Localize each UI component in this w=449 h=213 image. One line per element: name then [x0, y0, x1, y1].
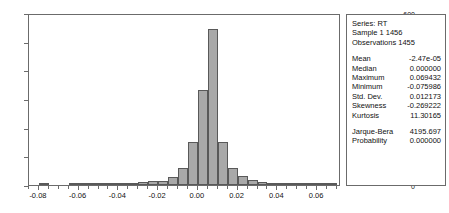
- x-tick-mark: [237, 186, 238, 190]
- x-tick-minor-mark: [48, 186, 49, 189]
- histogram-bar: [118, 183, 128, 185]
- x-tick-label: -0.08: [18, 192, 58, 200]
- statistic-row: Kurtosis11.30165: [352, 111, 441, 120]
- histogram-bar: [277, 183, 287, 185]
- statistics-rows: Mean-2.47e-05Median0.000000Maximum0.0694…: [352, 54, 441, 120]
- statistic-value: -0.269222: [407, 101, 441, 110]
- histogram-bar: [258, 182, 268, 185]
- statistic-row: Minimum-0.075986: [352, 82, 441, 91]
- histogram-bar: [238, 176, 248, 185]
- x-tick-mark: [157, 186, 158, 190]
- x-tick-minor-mark: [88, 186, 89, 189]
- x-tick-minor-mark: [306, 186, 307, 189]
- statistics-header-line: Sample 1 1456: [352, 28, 441, 37]
- histogram-bar: [79, 183, 89, 185]
- test-value: 4195.697: [410, 127, 441, 136]
- x-tick-mark: [197, 186, 198, 190]
- x-tick-minor-mark: [207, 186, 208, 189]
- statistic-label: Maximum: [352, 73, 388, 82]
- x-tick-minor-mark: [98, 186, 99, 189]
- spacer: [352, 47, 441, 54]
- x-tick-minor-mark: [167, 186, 168, 189]
- histogram-bar: [248, 180, 258, 185]
- statistic-row: Probability0.000000: [352, 136, 441, 145]
- x-tick-label: 0.04: [256, 192, 296, 200]
- histogram-bar: [327, 183, 337, 185]
- statistic-row: Maximum0.069432: [352, 73, 441, 82]
- statistic-label: Median: [352, 64, 380, 73]
- histogram-bar: [307, 183, 317, 185]
- histogram-bar: [89, 183, 99, 185]
- x-tick-minor-mark: [187, 186, 188, 189]
- statistics-header: Series: RTSample 1 1456Observations 1455: [352, 19, 441, 47]
- x-tick-mark: [117, 186, 118, 190]
- x-tick-minor-mark: [107, 186, 108, 189]
- statistic-row: Jarque-Bera4195.697: [352, 127, 441, 136]
- histogram-bar: [148, 181, 158, 185]
- x-tick-label: -0.06: [58, 192, 98, 200]
- x-tick-minor-mark: [286, 186, 287, 189]
- statistics-header-line: Observations 1455: [352, 38, 441, 47]
- histogram-bar: [287, 183, 297, 185]
- test-value: 0.000000: [410, 136, 441, 145]
- x-tick-minor-mark: [247, 186, 248, 189]
- histogram-bar: [218, 142, 228, 185]
- x-tick-minor-mark: [127, 186, 128, 189]
- x-tick-minor-mark: [217, 186, 218, 189]
- spacer: [352, 120, 441, 127]
- x-tick-minor-mark: [266, 186, 267, 189]
- statistic-row: Median0.000000: [352, 64, 441, 73]
- histogram-bar: [228, 168, 238, 185]
- histogram-bar: [138, 182, 148, 185]
- x-tick-mark: [38, 186, 39, 190]
- x-tick-label: 0.00: [177, 192, 217, 200]
- x-tick-minor-mark: [296, 186, 297, 189]
- x-tick-mark: [78, 186, 79, 190]
- histogram-plot-area: [28, 14, 340, 186]
- test-label: Jarque-Bera: [352, 127, 396, 136]
- histogram-bar: [178, 168, 188, 185]
- x-tick-minor-mark: [326, 186, 327, 189]
- statistics-panel: Series: RTSample 1 1456Observations 1455…: [346, 14, 446, 186]
- histogram-bar: [99, 183, 109, 185]
- histogram-bar: [267, 183, 277, 185]
- histogram-bar: [188, 142, 198, 185]
- histogram-bar: [297, 183, 307, 185]
- x-tick-minor-mark: [147, 186, 148, 189]
- statistic-value: 0.012173: [410, 92, 441, 101]
- normality-test-rows: Jarque-Bera4195.697Probability0.000000: [352, 127, 441, 146]
- test-label: Probability: [352, 136, 390, 145]
- statistic-label: Minimum: [352, 82, 385, 91]
- statistic-row: Std. Dev.0.012173: [352, 92, 441, 101]
- histogram-bar: [198, 90, 208, 185]
- statistic-row: Mean-2.47e-05: [352, 54, 441, 63]
- x-tick-minor-mark: [336, 186, 337, 189]
- statistic-row: Skewness-0.269222: [352, 101, 441, 110]
- x-tick-mark: [316, 186, 317, 190]
- x-tick-label: -0.04: [97, 192, 137, 200]
- statistic-label: Mean: [352, 54, 374, 63]
- x-tick-label: -0.02: [137, 192, 177, 200]
- histogram-bar: [168, 177, 178, 185]
- x-tick-minor-mark: [177, 186, 178, 189]
- statistic-value: -2.47e-05: [409, 54, 441, 63]
- histogram-bar: [317, 183, 327, 185]
- statistic-value: 11.30165: [410, 111, 441, 120]
- histogram-bar: [69, 183, 79, 185]
- x-tick-label: 0.06: [296, 192, 336, 200]
- statistic-label: Skewness: [352, 101, 389, 110]
- histogram-bar: [39, 183, 49, 185]
- histogram-screenshot: 6005004003002001000 -0.08-0.06-0.04-0.02…: [0, 0, 449, 213]
- x-tick-minor-mark: [227, 186, 228, 189]
- x-tick-minor-mark: [137, 186, 138, 189]
- x-tick-minor-mark: [68, 186, 69, 189]
- x-tick-minor-mark: [28, 186, 29, 189]
- histogram-bar: [208, 29, 218, 185]
- statistic-value: 0.000000: [410, 64, 441, 73]
- x-tick-label: 0.02: [217, 192, 257, 200]
- statistics-header-line: Series: RT: [352, 19, 441, 28]
- statistic-label: Kurtosis: [352, 111, 382, 120]
- histogram-bar: [158, 181, 168, 185]
- statistic-value: -0.075986: [407, 82, 441, 91]
- statistic-value: 0.069432: [410, 73, 441, 82]
